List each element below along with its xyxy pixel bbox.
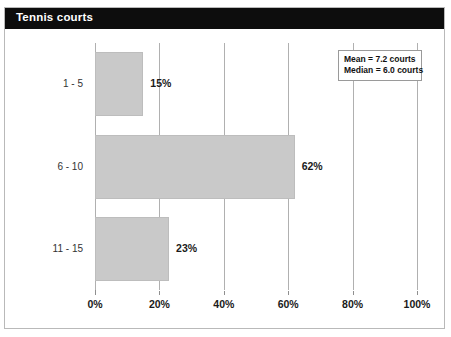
bar (95, 217, 169, 281)
category-label: 1 - 5 (0, 78, 83, 89)
x-axis-tick-label: 40% (213, 298, 234, 310)
x-axis-tick (95, 291, 96, 295)
chart-figure: Tennis courts Mean = 7.2 courts Median =… (0, 0, 451, 337)
x-axis-tick (417, 291, 418, 295)
x-axis-tick-label: 80% (342, 298, 363, 310)
bar (95, 135, 295, 199)
x-axis-tick (224, 291, 225, 295)
x-axis-tick (353, 291, 354, 295)
x-axis-tick-label: 0% (87, 298, 102, 310)
x-axis-tick-label: 20% (149, 298, 170, 310)
bar-value-label: 15% (150, 77, 171, 89)
x-axis-tick-label: 100% (404, 298, 431, 310)
title-banner: Tennis courts (5, 8, 444, 29)
x-axis-tick (159, 291, 160, 295)
stats-median: Median = 6.0 courts (344, 65, 416, 76)
category-label: 11 - 15 (0, 243, 83, 254)
x-axis-tick (288, 291, 289, 295)
bar-value-label: 62% (302, 160, 323, 172)
bar-value-label: 23% (176, 242, 197, 254)
stats-mean: Mean = 7.2 courts (344, 54, 416, 65)
bar (95, 52, 143, 116)
category-label: 6 - 10 (0, 161, 83, 172)
chart-title: Tennis courts (16, 11, 93, 23)
stats-annotation-box: Mean = 7.2 courts Median = 6.0 courts (338, 50, 422, 81)
x-axis-tick-label: 60% (278, 298, 299, 310)
